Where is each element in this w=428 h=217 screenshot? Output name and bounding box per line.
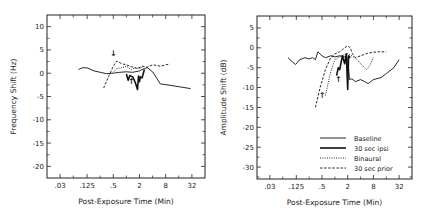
y-tick-label: -30 (243, 164, 254, 172)
plot-frame (257, 16, 412, 179)
x-tick-label: .125 (289, 183, 305, 191)
y-tick-label: 5 (40, 46, 44, 54)
x-axis-label: Post-Exposure Time (Min) (287, 198, 382, 207)
amplitude-shift-panel: .03.125.5283250-5-10-15-20-25-30Post-Exp… (219, 16, 412, 207)
x-tick-label: 32 (395, 183, 404, 191)
plot-frame (47, 15, 205, 178)
y-axis-label: Frequency Shift (Hz) (9, 58, 18, 134)
x-tick-label: 32 (187, 182, 196, 190)
x-tick-label: .5 (319, 183, 326, 191)
arrow-annotation: ↑ (128, 77, 135, 86)
y-tick-label: 5 (250, 24, 254, 32)
y-tick-label: 10 (35, 23, 44, 31)
y-tick-label: -5 (37, 93, 44, 101)
x-tick-label: 2 (345, 183, 349, 191)
x-axis-label: Post-Exposure Time (Min) (78, 197, 173, 206)
y-tick-label: -20 (243, 124, 254, 132)
y-tick-label: -10 (243, 84, 254, 92)
frequency-shift-panel: .03.125.528321050-5-10-15-20Post-Exposur… (9, 15, 205, 206)
legend-label: Baseline (354, 135, 382, 143)
legend-label: 30 sec prior (354, 165, 393, 173)
y-tick-label: -15 (33, 140, 44, 148)
series-30-sec-ipsi (337, 54, 351, 90)
x-tick-label: 8 (371, 183, 375, 191)
y-axis-label: Amplitude Shift (dB) (219, 59, 228, 135)
y-tick-label: 0 (40, 70, 44, 78)
y-tick-label: -5 (247, 64, 254, 72)
x-tick-label: .03 (264, 183, 275, 191)
x-tick-label: 2 (137, 182, 141, 190)
legend-label: Binaural (354, 155, 381, 163)
x-tick-label: .5 (110, 182, 117, 190)
legend-label: 30 sec ipsi (354, 145, 389, 153)
y-tick-label: -15 (243, 104, 254, 112)
x-tick-label: .03 (55, 182, 66, 190)
arrow-annotation: ↑ (335, 75, 342, 84)
y-tick-label: -10 (33, 116, 44, 124)
arrow-annotation: ↓ (110, 49, 117, 58)
figure: .03.125.528321050-5-10-15-20Post-Exposur… (0, 0, 428, 217)
y-tick-label: -25 (243, 144, 254, 152)
x-tick-label: 8 (163, 182, 167, 190)
y-tick-label: -20 (33, 163, 44, 171)
arrow-annotation: ↑ (319, 91, 326, 100)
series-30-sec-prior (315, 46, 386, 108)
series-baseline (288, 52, 399, 84)
y-tick-label: 0 (250, 44, 254, 52)
x-tick-label: .125 (79, 182, 95, 190)
